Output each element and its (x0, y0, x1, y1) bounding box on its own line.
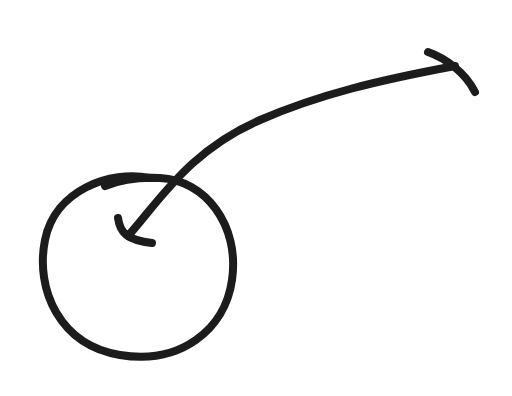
circle-shape (43, 176, 233, 356)
sketch-canvas (0, 0, 512, 396)
arrow-shaft (128, 66, 455, 236)
